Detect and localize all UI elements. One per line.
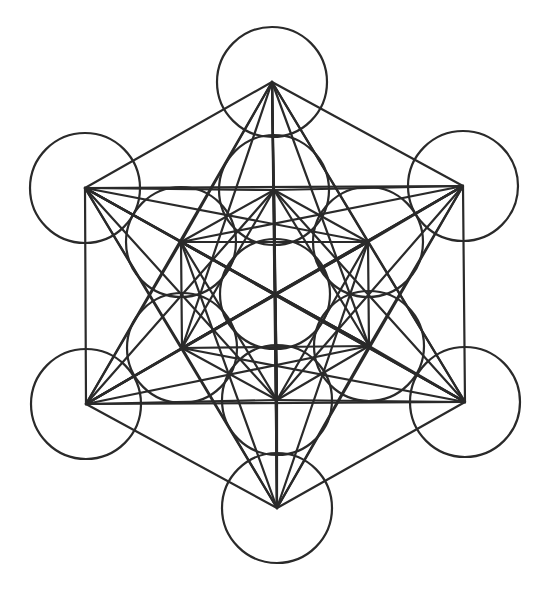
connecting-lines xyxy=(85,82,465,508)
line-outer-upper-right-to-outer-lower-right xyxy=(463,186,465,402)
line-inner-lower-left-to-inner-upper-left xyxy=(181,242,182,348)
line-outer-top-to-outer-upper-left xyxy=(85,82,272,188)
line-outer-bottom-to-outer-lower-left xyxy=(86,404,277,508)
line-outer-lower-right-to-outer-bottom xyxy=(277,402,465,508)
metatrons-cube-diagram xyxy=(0,0,541,590)
line-outer-lower-left-to-outer-upper-left xyxy=(85,188,86,404)
line-outer-top-to-outer-upper-right xyxy=(272,82,463,186)
